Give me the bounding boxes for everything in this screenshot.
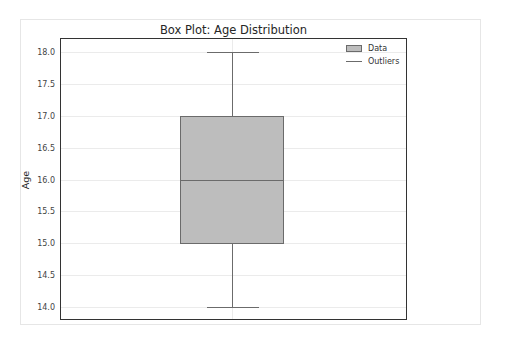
legend-swatch-data: [346, 45, 362, 52]
chart-title: Box Plot: Age Distribution: [60, 23, 407, 37]
upper-cap: [207, 52, 259, 53]
upper-whisker: [232, 52, 233, 116]
y-axis-label: Age: [20, 171, 31, 189]
legend-label-outliers: Outliers: [368, 57, 399, 66]
y-tick-label: 14.0: [20, 303, 55, 312]
y-tick-label: 17.5: [20, 79, 55, 88]
median-line: [180, 180, 284, 181]
y-tick-label: 15.5: [20, 207, 55, 216]
lower-cap: [207, 307, 259, 308]
y-tick-label: 14.5: [20, 271, 55, 280]
y-tick-label: 16.5: [20, 143, 55, 152]
y-tick-label: 18.0: [20, 48, 55, 57]
legend: Data Outliers: [342, 42, 402, 72]
legend-item-outliers: Outliers: [346, 57, 399, 66]
y-tick-label: 15.0: [20, 239, 55, 248]
legend-item-data: Data: [346, 44, 387, 53]
legend-label-data: Data: [368, 44, 387, 53]
lower-whisker: [232, 243, 233, 307]
y-tick-label: 17.0: [20, 111, 55, 120]
legend-line-outliers: [346, 61, 362, 62]
